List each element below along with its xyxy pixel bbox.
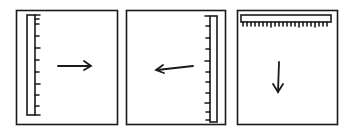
diagram-canvas [0, 0, 344, 135]
panel-frame [238, 11, 338, 125]
arrow-left-icon [156, 65, 193, 73]
panel-frame [17, 11, 118, 125]
panel-1 [17, 11, 118, 125]
panel-2 [127, 11, 226, 125]
ruler-right [205, 16, 217, 122]
ruler-top [241, 15, 331, 27]
panel-3 [238, 11, 338, 125]
arrow-right-icon [58, 61, 91, 70]
ruler-left [27, 15, 40, 115]
arrow-down-icon [273, 62, 283, 92]
